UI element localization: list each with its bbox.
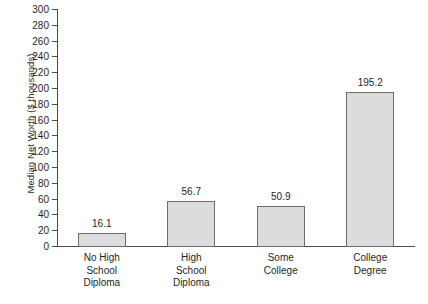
- x-category-label-line: School: [173, 265, 210, 278]
- x-category-label-line: Some: [264, 252, 298, 265]
- x-category-label: No HighSchoolDiploma: [83, 252, 120, 290]
- y-tick-label: 240: [32, 51, 49, 62]
- y-tick-mark: [52, 25, 57, 26]
- y-tick-label: 180: [32, 98, 49, 109]
- y-tick-label: 0: [43, 241, 49, 252]
- y-tick-mark: [52, 56, 57, 57]
- y-tick-mark: [52, 9, 57, 10]
- x-category-label: SomeCollege: [264, 252, 298, 277]
- y-tick-mark: [52, 135, 57, 136]
- y-tick-mark: [52, 246, 57, 247]
- plot-area: 0204060801001201401601802002202402602803…: [57, 9, 415, 247]
- bar-value-label: 56.7: [182, 186, 201, 197]
- bar: [346, 92, 394, 247]
- x-category-label-line: High: [173, 252, 210, 265]
- bar-value-label: 50.9: [271, 191, 290, 202]
- x-category-label: HighSchoolDiploma: [173, 252, 210, 290]
- bar-value-label: 16.1: [92, 218, 111, 229]
- x-category-label-line: Diploma: [83, 277, 120, 290]
- x-category-label-line: Degree: [353, 265, 387, 278]
- y-tick-mark: [52, 104, 57, 105]
- y-tick-label: 260: [32, 35, 49, 46]
- x-category-label-line: No High: [83, 252, 120, 265]
- y-tick-mark: [52, 199, 57, 200]
- y-tick-mark: [52, 214, 57, 215]
- y-tick-mark: [52, 151, 57, 152]
- x-category-label-line: Diploma: [173, 277, 210, 290]
- y-tick-label: 120: [32, 146, 49, 157]
- bar-chart: Median Net Worth ($ thousands) 020406080…: [0, 0, 428, 304]
- y-tick-mark: [52, 88, 57, 89]
- y-tick-label: 160: [32, 114, 49, 125]
- x-category-label-line: School: [83, 265, 120, 278]
- bar: [78, 233, 126, 247]
- bar: [167, 201, 215, 247]
- y-tick-label: 280: [32, 19, 49, 30]
- y-tick-label: 200: [32, 83, 49, 94]
- y-tick-mark: [52, 72, 57, 73]
- x-category-label-line: College: [264, 265, 298, 278]
- y-tick-label: 60: [38, 193, 49, 204]
- bar-value-label: 195.2: [358, 77, 383, 88]
- y-tick-mark: [52, 230, 57, 231]
- y-tick-mark: [52, 167, 57, 168]
- y-tick-mark: [52, 183, 57, 184]
- y-tick-label: 80: [38, 177, 49, 188]
- y-tick-mark: [52, 41, 57, 42]
- y-tick-label: 40: [38, 209, 49, 220]
- y-tick-label: 220: [32, 67, 49, 78]
- y-tick-mark: [52, 120, 57, 121]
- y-tick-label: 20: [38, 225, 49, 236]
- y-tick-label: 100: [32, 162, 49, 173]
- x-category-label: CollegeDegree: [353, 252, 387, 277]
- x-category-label-line: College: [353, 252, 387, 265]
- bar: [257, 206, 305, 247]
- y-tick-label: 140: [32, 130, 49, 141]
- y-axis-line: [57, 9, 58, 247]
- y-tick-label: 300: [32, 4, 49, 15]
